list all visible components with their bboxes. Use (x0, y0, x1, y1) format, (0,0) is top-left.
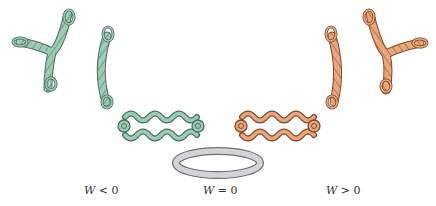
label-relaxed-writhe: W = 0 (203, 184, 238, 197)
writhe-symbol: W (84, 184, 95, 197)
value: 0 (112, 184, 119, 197)
writhe-symbol: W (326, 184, 337, 197)
value: 0 (231, 184, 238, 197)
relaxed-ring (176, 151, 260, 175)
relation-symbol: < (99, 184, 108, 197)
positive-supercoiled-loop (235, 114, 320, 139)
positive-linear-plectoneme (326, 27, 338, 108)
positive-branched-plectoneme (364, 10, 427, 92)
writhe-symbol: W (203, 184, 214, 197)
label-negative-writhe: W < 0 (84, 184, 119, 197)
relation-symbol: = (218, 184, 227, 197)
supercoil-diagram (0, 0, 436, 206)
negative-branched-plectoneme (13, 10, 74, 90)
relation-symbol: > (341, 184, 350, 197)
negative-supercoiled-loop (118, 114, 204, 139)
value: 0 (354, 184, 361, 197)
label-positive-writhe: W > 0 (326, 184, 361, 197)
negative-linear-plectoneme (101, 27, 113, 108)
